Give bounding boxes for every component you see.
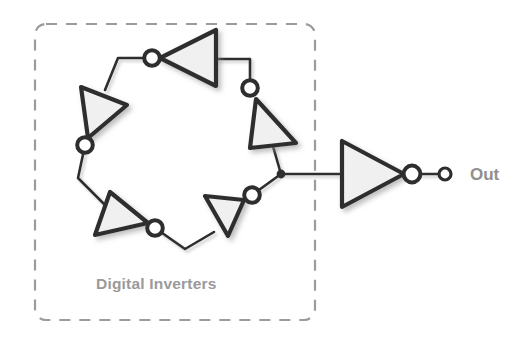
- inverter-4-bubble-icon: [147, 220, 163, 236]
- output-inverter-bubble-icon: [404, 166, 421, 183]
- inverter-2-upper-right[interactable]: [250, 99, 296, 148]
- inverter-1-bubble-icon: [144, 50, 160, 66]
- inverter-1-top[interactable]: [160, 30, 216, 86]
- output-label: Out: [470, 165, 500, 184]
- ring-oscillator-diagram: Digital Inverters Out: [0, 0, 525, 345]
- output-inverter-triangle: [342, 141, 404, 207]
- output-terminal[interactable]: [439, 168, 451, 180]
- inverter-3-triangle: [205, 196, 244, 236]
- inverter-5-triangle: [81, 87, 127, 138]
- output-inverter[interactable]: [342, 141, 404, 207]
- wire-seg-tap-to-2: [272, 143, 281, 174]
- inverter-2-triangle: [250, 99, 296, 148]
- group-box-label: Digital Inverters: [96, 275, 217, 292]
- inverter-3-bubble-icon: [244, 187, 260, 203]
- output-tap-junction: [277, 170, 286, 179]
- inverter-1-triangle: [160, 30, 216, 86]
- inverter-3-lower-right[interactable]: [205, 196, 244, 236]
- inverter-5-upper-left[interactable]: [81, 87, 127, 138]
- inverter-2-bubble-icon: [242, 80, 258, 96]
- inverter-5-bubble-icon: [77, 137, 93, 153]
- inverter-4-lower-left[interactable]: [95, 192, 148, 235]
- inverter-4-triangle: [95, 192, 148, 235]
- diagram-canvas: Digital Inverters Out: [0, 0, 525, 345]
